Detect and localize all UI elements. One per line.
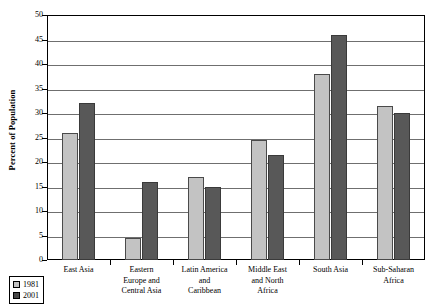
bar-group	[236, 15, 299, 260]
bar	[188, 177, 204, 260]
legend-swatch-icon	[13, 292, 20, 299]
legend-item-label: 1981	[23, 281, 39, 289]
bar	[142, 182, 158, 260]
bar	[377, 106, 393, 260]
bar-group	[110, 15, 173, 260]
bar-chart: Percent of Population 504540353025201510…	[0, 0, 432, 307]
bar-group	[299, 15, 362, 260]
y-axis-tick-label: 25	[21, 134, 43, 142]
category-label-line: South Asia	[299, 265, 362, 276]
y-axis-title: Percent of Population	[2, 0, 22, 260]
category-label-line: Africa	[362, 276, 425, 287]
bar	[125, 238, 141, 260]
bars-layer	[47, 15, 425, 260]
category-label-line: Latin America	[173, 265, 236, 276]
bar	[62, 133, 78, 260]
x-axis-category-label: Latin AmericaandCaribbean	[173, 265, 236, 297]
y-axis-tick-label: 40	[21, 60, 43, 68]
bar	[268, 155, 284, 260]
x-axis-category-label: South Asia	[299, 265, 362, 276]
y-axis-tick-label: 5	[21, 232, 43, 240]
y-axis-tick-label: 0	[21, 256, 43, 264]
bar	[251, 140, 267, 260]
bar	[79, 103, 95, 260]
x-axis-category-label: East Asia	[47, 265, 110, 276]
y-axis-tick-label: 35	[21, 85, 43, 93]
bar-group	[362, 15, 425, 260]
category-label-line: and North	[236, 276, 299, 287]
legend-item-label: 2001	[23, 292, 39, 300]
category-label-line: Sub-Saharan	[362, 265, 425, 276]
bar-group	[173, 15, 236, 260]
category-label-line: Eastern	[110, 265, 173, 276]
legend-item: 1981	[13, 279, 39, 290]
y-axis-tick-label: 15	[21, 183, 43, 191]
bar	[331, 35, 347, 260]
category-label-line: Central Asia	[110, 286, 173, 297]
x-axis-category-label: Sub-SaharanAfrica	[362, 265, 425, 286]
x-axis-category-label: Middle Eastand NorthAfrica	[236, 265, 299, 297]
y-axis-title-text: Percent of Population	[7, 90, 17, 171]
legend-swatch-icon	[13, 281, 20, 288]
y-axis-tick-mark	[42, 260, 47, 261]
x-axis-category-label: EasternEurope andCentral Asia	[110, 265, 173, 297]
x-axis-category-labels: East AsiaEasternEurope andCentral AsiaLa…	[47, 265, 425, 307]
bar	[205, 187, 221, 261]
bar	[314, 74, 330, 260]
category-label-line: Europe and	[110, 276, 173, 287]
y-axis-tick-label: 20	[21, 158, 43, 166]
category-label-line: and	[173, 276, 236, 287]
chart-legend: 19812001	[9, 276, 44, 304]
y-axis-tick-label: 50	[21, 11, 43, 19]
category-label-line: Caribbean	[173, 286, 236, 297]
bar-group	[47, 15, 110, 260]
y-axis-tick-label: 45	[21, 36, 43, 44]
legend-item: 2001	[13, 290, 39, 301]
category-label-line: East Asia	[47, 265, 110, 276]
category-label-line: Africa	[236, 286, 299, 297]
y-axis-tick-label: 30	[21, 109, 43, 117]
bar	[394, 113, 410, 260]
y-axis-tick-label: 10	[21, 207, 43, 215]
category-label-line: Middle East	[236, 265, 299, 276]
